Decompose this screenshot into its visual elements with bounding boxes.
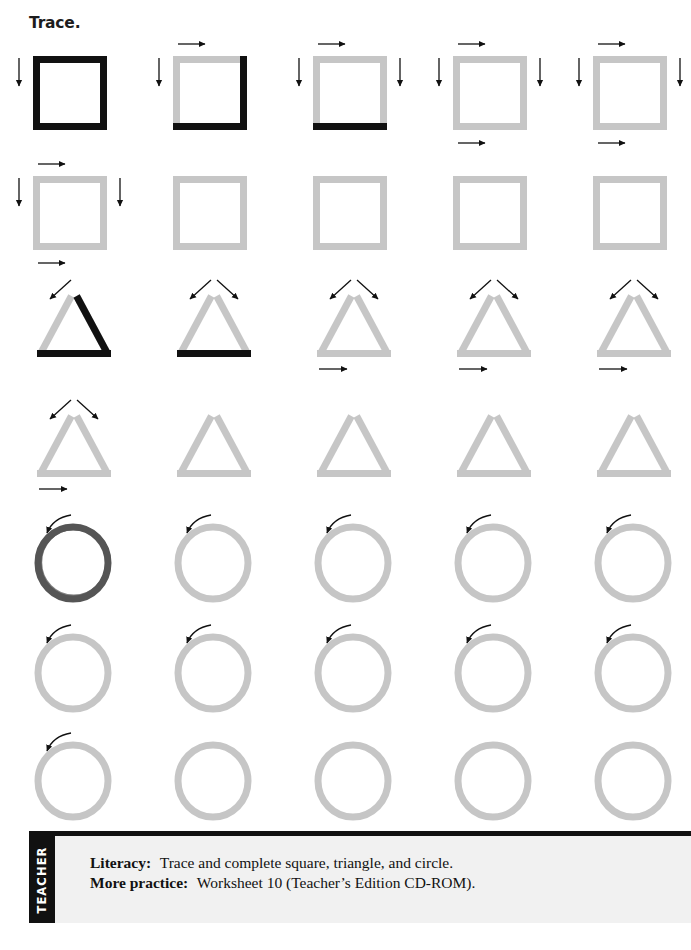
trace-cell-square-r0-c2[interactable] (309, 28, 449, 146)
trace-cell-triangle-r2-c2[interactable] (309, 268, 449, 386)
trace-cell-square-r1-c3[interactable] (449, 148, 589, 266)
teacher-tab: TEACHER (29, 836, 55, 923)
footer-line-1: More practice: Worksheet 10 (Teacher’s E… (90, 873, 670, 893)
circle-trace-glyph (589, 505, 691, 623)
worksheet-page: Trace. TEACHER Literacy: Trace and compl… (0, 0, 691, 950)
circle-trace-glyph (449, 505, 589, 623)
square-trace-glyph (169, 28, 309, 146)
triangle-trace-glyph (29, 268, 169, 386)
trace-cell-square-r0-c1[interactable] (169, 28, 309, 146)
trace-cell-square-r0-c0[interactable] (29, 28, 169, 146)
circle-trace-glyph (169, 615, 309, 733)
trace-cell-circle-r5-c3[interactable] (449, 615, 589, 733)
teacher-footer: TEACHER Literacy: Trace and complete squ… (29, 831, 691, 923)
tracing-grid (0, 0, 691, 826)
triangle-trace-glyph (589, 268, 691, 386)
triangle-trace-glyph (29, 388, 169, 506)
square-trace-glyph (29, 28, 169, 146)
trace-cell-triangle-r2-c0[interactable] (29, 268, 169, 386)
square-trace-glyph (169, 148, 309, 266)
circle-trace-glyph (309, 723, 449, 841)
trace-cell-triangle-r2-c4[interactable] (589, 268, 691, 386)
circle-trace-glyph (449, 723, 589, 841)
circle-trace-glyph (169, 723, 309, 841)
trace-cell-square-r1-c1[interactable] (169, 148, 309, 266)
circle-trace-glyph (29, 615, 169, 733)
trace-cell-square-r0-c3[interactable] (449, 28, 589, 146)
circle-trace-glyph (309, 505, 449, 623)
triangle-trace-glyph (169, 388, 309, 506)
teacher-tab-label: TEACHER (35, 846, 49, 913)
square-trace-glyph (309, 148, 449, 266)
trace-cell-circle-r4-c0[interactable] (29, 505, 169, 623)
square-trace-glyph (589, 28, 691, 146)
footer-text: Literacy: Trace and complete square, tri… (90, 853, 670, 893)
circle-trace-glyph (309, 615, 449, 733)
trace-cell-circle-r5-c0[interactable] (29, 615, 169, 733)
circle-trace-glyph (29, 723, 169, 841)
trace-cell-triangle-r3-c4[interactable] (589, 388, 691, 506)
circle-trace-glyph (449, 615, 589, 733)
trace-cell-circle-r6-c0[interactable] (29, 723, 169, 841)
circle-trace-glyph (589, 723, 691, 841)
square-trace-glyph (309, 28, 449, 146)
trace-cell-circle-r6-c3[interactable] (449, 723, 589, 841)
triangle-trace-glyph (589, 388, 691, 506)
trace-cell-circle-r6-c2[interactable] (309, 723, 449, 841)
trace-cell-circle-r5-c1[interactable] (169, 615, 309, 733)
trace-cell-square-r0-c4[interactable] (589, 28, 691, 146)
square-trace-glyph (449, 148, 589, 266)
footer-line-0: Literacy: Trace and complete square, tri… (90, 853, 670, 873)
square-trace-glyph (29, 148, 169, 266)
circle-trace-glyph (589, 615, 691, 733)
trace-cell-circle-r5-c4[interactable] (589, 615, 691, 733)
square-trace-glyph (449, 28, 589, 146)
trace-cell-triangle-r3-c2[interactable] (309, 388, 449, 506)
trace-cell-square-r1-c2[interactable] (309, 148, 449, 266)
square-trace-glyph (589, 148, 691, 266)
trace-cell-triangle-r3-c1[interactable] (169, 388, 309, 506)
trace-cell-circle-r6-c4[interactable] (589, 723, 691, 841)
trace-cell-circle-r6-c1[interactable] (169, 723, 309, 841)
circle-trace-glyph (29, 505, 169, 623)
trace-cell-triangle-r3-c0[interactable] (29, 388, 169, 506)
footer-line-text-1: Worksheet 10 (Teacher’s Edition CD-ROM). (193, 874, 475, 891)
trace-cell-square-r1-c0[interactable] (29, 148, 169, 266)
trace-cell-circle-r5-c2[interactable] (309, 615, 449, 733)
trace-cell-circle-r4-c2[interactable] (309, 505, 449, 623)
triangle-trace-glyph (169, 268, 309, 386)
footer-line-text-0: Trace and complete square, triangle, and… (156, 854, 453, 871)
triangle-trace-glyph (449, 268, 589, 386)
trace-cell-circle-r4-c4[interactable] (589, 505, 691, 623)
trace-cell-circle-r4-c1[interactable] (169, 505, 309, 623)
triangle-trace-glyph (449, 388, 589, 506)
footer-line-label-0: Literacy: (90, 854, 151, 871)
footer-line-label-1: More practice: (90, 874, 188, 891)
trace-cell-triangle-r3-c3[interactable] (449, 388, 589, 506)
trace-cell-square-r1-c4[interactable] (589, 148, 691, 266)
trace-cell-circle-r4-c3[interactable] (449, 505, 589, 623)
triangle-trace-glyph (309, 268, 449, 386)
circle-trace-glyph (169, 505, 309, 623)
triangle-trace-glyph (309, 388, 449, 506)
trace-cell-triangle-r2-c1[interactable] (169, 268, 309, 386)
trace-cell-triangle-r2-c3[interactable] (449, 268, 589, 386)
